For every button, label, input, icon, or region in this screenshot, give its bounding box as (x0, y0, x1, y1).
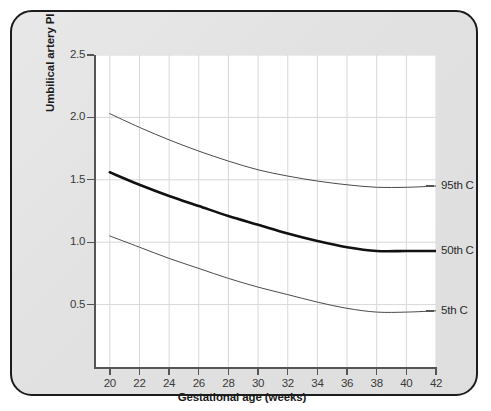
x-tick-label: 28 (215, 377, 241, 389)
series-leader-tick (426, 310, 434, 311)
x-tick-label: 20 (97, 377, 123, 389)
x-tick-mark (317, 368, 318, 375)
curve-5th-c (110, 236, 436, 312)
x-tick-label: 40 (393, 377, 419, 389)
series-label-95th-c: 95th C (441, 179, 474, 191)
curve-50th-c (110, 172, 436, 251)
y-tick-label: 1.5 (57, 173, 85, 185)
y-tick-mark (87, 304, 94, 305)
x-tick-label: 24 (156, 377, 182, 389)
y-tick-mark (87, 117, 94, 118)
series-label-5th-c: 5th C (441, 304, 468, 316)
x-tick-mark (228, 368, 229, 375)
x-tick-label: 30 (245, 377, 271, 389)
y-tick-label: 2.5 (57, 48, 85, 60)
x-tick-label: 38 (364, 377, 390, 389)
plot-area (95, 55, 436, 367)
x-tick-mark (139, 368, 140, 375)
x-tick-label: 32 (275, 377, 301, 389)
x-tick-mark (168, 368, 169, 375)
curve-95th-c (110, 114, 436, 188)
percentile-curves (95, 55, 436, 367)
y-tick-label: 1.0 (57, 235, 85, 247)
series-leader-tick (426, 185, 434, 186)
y-tick-label: 0.5 (57, 298, 85, 310)
x-tick-mark (109, 368, 110, 375)
series-leader-tick (426, 250, 434, 252)
y-tick-mark (87, 179, 94, 180)
y-tick-mark (87, 242, 94, 243)
x-tick-label: 26 (186, 377, 212, 389)
x-axis-title: Gestational age (weeks) (12, 391, 472, 403)
x-tick-mark (198, 368, 199, 375)
y-axis-title: Umbilical artery PI (44, 0, 56, 112)
figure-frame: 0.51.01.52.02.5 202224262830323436384042… (10, 10, 478, 396)
x-axis-line (94, 367, 437, 369)
x-tick-mark (376, 368, 377, 375)
x-tick-label: 22 (126, 377, 152, 389)
x-tick-mark (346, 368, 347, 375)
x-tick-mark (257, 368, 258, 375)
y-tick-label: 2.0 (57, 110, 85, 122)
series-label-50th-c: 50th C (441, 244, 474, 256)
y-axis-line (94, 55, 96, 368)
y-tick-mark (87, 54, 94, 55)
x-tick-label: 42 (423, 377, 449, 389)
x-tick-mark (406, 368, 407, 375)
x-tick-label: 36 (334, 377, 360, 389)
chart-screenshot: 0.51.01.52.02.5 202224262830323436384042… (0, 0, 491, 411)
x-tick-mark (287, 368, 288, 375)
x-tick-mark (435, 368, 436, 375)
x-tick-label: 34 (304, 377, 330, 389)
